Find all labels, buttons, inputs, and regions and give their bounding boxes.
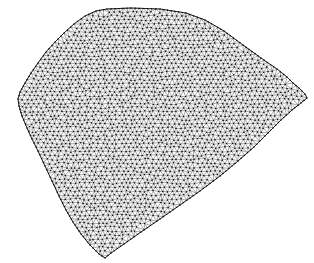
mesh-edge-group — [18, 8, 307, 258]
mesh-node-group — [17, 7, 307, 258]
mesh-nodes — [17, 7, 307, 258]
mesh-figure: ........... — [0, 0, 314, 263]
mesh-domain-outline — [18, 8, 307, 258]
triangular-mesh-plot — [0, 0, 314, 263]
mesh-edges — [18, 8, 307, 258]
